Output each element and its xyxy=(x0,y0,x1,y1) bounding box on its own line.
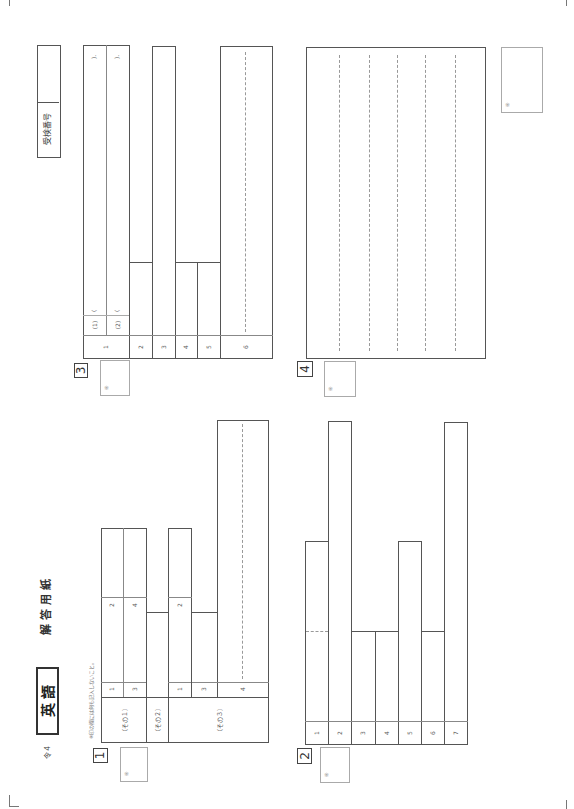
subject-title: 英 語 xyxy=(40,669,56,733)
item-number: 3 xyxy=(160,341,168,353)
section-2-score-box: ※ xyxy=(320,747,350,783)
exam-number-field[interactable] xyxy=(38,46,59,103)
sub-item-label: (2) xyxy=(114,318,122,332)
score-mark: ※ xyxy=(124,770,129,777)
section-1-score-box: ※ xyxy=(120,747,148,782)
paren-open: ( xyxy=(90,304,98,312)
part-label: （その１） xyxy=(120,696,128,744)
answer-field[interactable] xyxy=(198,263,220,335)
score-mark: ※ xyxy=(324,771,329,778)
answer-field[interactable] xyxy=(176,263,197,335)
item-number: 1 xyxy=(108,683,116,695)
answer-field[interactable] xyxy=(102,529,123,597)
section-3-score-box: ※ xyxy=(100,360,130,396)
section-1-label: 1 xyxy=(93,748,108,763)
section-4-score-box: ※ xyxy=(324,361,356,397)
item-number: 1 xyxy=(102,341,110,353)
answer-field[interactable] xyxy=(329,422,351,720)
answer-field[interactable] xyxy=(84,60,105,300)
paren-open: ( xyxy=(113,304,121,312)
item-number: 5 xyxy=(205,341,213,353)
score-mark: ※ xyxy=(104,384,109,391)
year-label: 令４ xyxy=(42,742,54,762)
crop-mark xyxy=(9,0,10,6)
item-number: 2 xyxy=(108,599,116,611)
answer-field[interactable] xyxy=(422,632,444,720)
exam-number-label: 受検番号 xyxy=(41,102,55,156)
section-4-label: 4 xyxy=(297,361,313,377)
answer-field[interactable] xyxy=(218,421,268,681)
answer-field[interactable] xyxy=(153,47,175,335)
item-number: 4 xyxy=(383,727,391,739)
answer-field[interactable] xyxy=(124,529,146,597)
answer-field[interactable] xyxy=(192,613,217,681)
item-number: 3 xyxy=(359,727,367,739)
section-3-label: 3 xyxy=(74,363,88,378)
item-number: 6 xyxy=(242,341,250,353)
item-number: 2 xyxy=(336,727,344,739)
answer-field[interactable] xyxy=(352,632,375,720)
item-number: 3 xyxy=(200,683,208,695)
answer-field[interactable] xyxy=(130,263,152,335)
score-mark: ※ xyxy=(505,101,510,108)
item-number: 7 xyxy=(452,727,460,739)
answer-field[interactable] xyxy=(169,529,191,597)
paren-close: ). xyxy=(90,49,98,59)
exam-number-box: 受検番号 xyxy=(37,45,61,158)
answer-field[interactable] xyxy=(399,542,421,720)
item-number: 2 xyxy=(137,341,145,353)
item-number: 4 xyxy=(131,599,139,611)
crop-mark xyxy=(9,806,19,807)
page-title: 解 答 用 紙 xyxy=(40,572,54,642)
item-number: 4 xyxy=(182,341,190,353)
answer-field[interactable] xyxy=(376,632,398,720)
paren-close: ). xyxy=(113,49,121,59)
item-number: 2 xyxy=(176,599,184,611)
answer-field[interactable] xyxy=(306,542,328,720)
instruction-note: ※印の欄には何も記入しないこと。 xyxy=(87,629,95,739)
crop-mark xyxy=(566,800,567,809)
answer-field[interactable] xyxy=(445,423,467,720)
section-2-label: 2 xyxy=(297,748,312,764)
answer-field[interactable] xyxy=(221,47,272,335)
item-number: 3 xyxy=(131,683,139,695)
score-mark: ※ xyxy=(328,385,333,392)
subject-box: 英 語 xyxy=(36,667,59,735)
item-number: 5 xyxy=(406,727,414,739)
item-number: 4 xyxy=(239,683,247,695)
part-label: （その３） xyxy=(215,696,223,744)
section-4-writing-box[interactable] xyxy=(306,47,486,359)
sub-item-label: (1) xyxy=(91,318,99,332)
item-number: 1 xyxy=(313,727,321,739)
total-score-box: ※ xyxy=(501,47,543,113)
item-number: 1 xyxy=(176,683,184,695)
answer-field[interactable] xyxy=(107,60,129,300)
item-number: 6 xyxy=(429,727,437,739)
part-label: （その２） xyxy=(153,696,161,744)
crop-mark xyxy=(566,0,567,6)
